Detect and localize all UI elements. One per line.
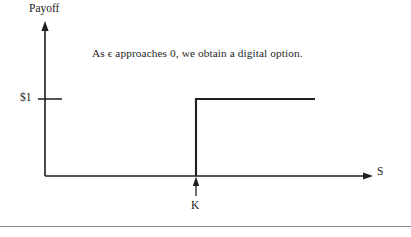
x-axis-label: S bbox=[377, 166, 383, 178]
annotation-caption: As ϵ approaches 0, we obtain a digital o… bbox=[92, 48, 303, 59]
payoff-diagram: Payoff S $1 K As ϵ approaches 0, we obta… bbox=[0, 0, 411, 237]
strike-pointer-arrowhead-icon bbox=[193, 177, 199, 187]
y-axis-arrowhead-icon bbox=[41, 21, 48, 31]
x-axis-arrowhead-icon bbox=[363, 172, 373, 179]
diagram-canvas bbox=[0, 0, 411, 237]
annotation-suffix: approaches 0, we obtain a digital option… bbox=[112, 47, 302, 59]
annotation-prefix: As bbox=[92, 47, 108, 59]
payoff-step-curve bbox=[196, 99, 315, 176]
y-axis-label: Payoff bbox=[29, 3, 59, 15]
payoff-level-tick-label: $1 bbox=[20, 92, 32, 104]
strike-price-label: K bbox=[191, 200, 199, 212]
